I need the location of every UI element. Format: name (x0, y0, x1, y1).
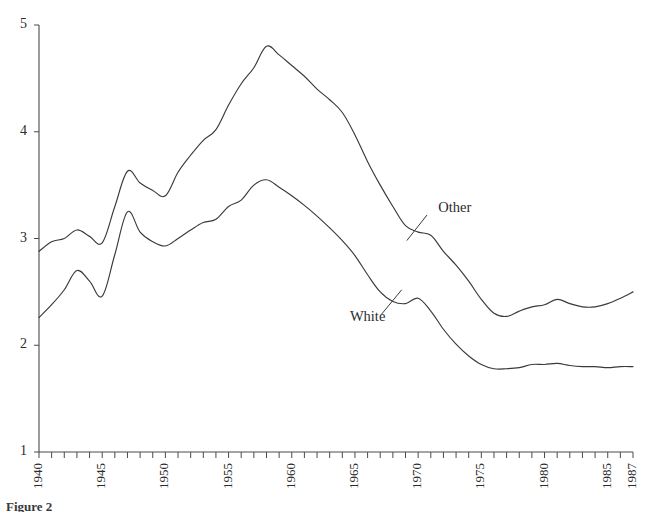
axes-group (39, 25, 633, 452)
series-label-other: Other (438, 199, 471, 215)
x-axis-tick-labels: 1940194519501955196019651970197519801985… (30, 463, 639, 490)
x-axis-tick-label: 1970 (409, 463, 424, 489)
leader-line-other (407, 215, 427, 241)
chart-axes (39, 25, 633, 452)
y-axis-tick-labels: 12345 (20, 16, 27, 458)
x-axis-tick-label: 1940 (30, 463, 45, 489)
x-axis-tick-label: 1975 (472, 463, 487, 489)
x-axis-tick-label: 1980 (536, 463, 551, 489)
figure-container: 12345 1940194519501955196019651970197519… (0, 0, 651, 512)
data-series-group (39, 46, 633, 369)
series-line-other (39, 46, 633, 317)
y-axis-tick-label: 3 (20, 230, 27, 245)
y-axis-tick-label: 5 (20, 16, 27, 31)
series-line-white (39, 180, 633, 369)
y-axis-tick-label: 1 (20, 443, 27, 458)
x-axis-tick-label: 1960 (283, 463, 298, 489)
x-axis-tick-label: 1985 (599, 463, 614, 489)
axis-ticks-group (34, 25, 633, 458)
y-axis-tick-label: 4 (20, 123, 27, 138)
figure-caption: Figure 2 (6, 498, 52, 512)
x-axis-tick-label: 1955 (220, 463, 235, 489)
x-axis-tick-label: 1987 (624, 463, 639, 490)
y-axis-tick-label: 2 (20, 336, 27, 351)
x-axis-tick-label: 1965 (346, 463, 361, 489)
line-chart: 12345 1940194519501955196019651970197519… (0, 0, 651, 512)
x-axis-tick-label: 1950 (156, 463, 171, 489)
series-label-white: White (350, 308, 385, 324)
x-axis-tick-label: 1945 (93, 463, 108, 489)
